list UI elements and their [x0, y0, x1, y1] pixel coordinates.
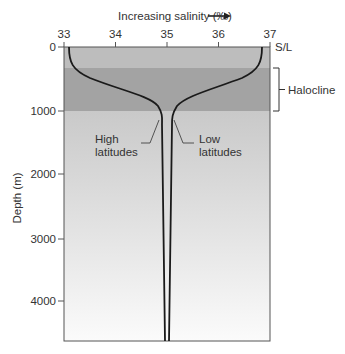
x-tick-33: 33 [58, 28, 71, 40]
y-axis-title: Depth (m) [11, 172, 23, 223]
plot-area [64, 47, 270, 341]
low-latitudes-label-line1: Low [199, 133, 221, 145]
high-latitudes-label-line1: High [95, 133, 119, 145]
x-tick-36: 36 [212, 28, 225, 40]
y-tick-2000: 2000 [30, 168, 56, 180]
x-tick-35: 35 [161, 28, 174, 40]
halocline-band [64, 68, 270, 111]
y-tick-3000: 3000 [30, 233, 56, 245]
surface-layer-band [64, 47, 270, 68]
y-tick-0: 0 [50, 41, 56, 53]
x-tick-37: 37 [264, 28, 277, 40]
x-tick-34: 34 [109, 28, 122, 40]
y-tick-1000: 1000 [30, 105, 56, 117]
sea-level-label: S/L [275, 41, 293, 53]
high-latitudes-label-line2: latitudes [95, 146, 138, 158]
y-axis [58, 47, 64, 301]
low-latitudes-label-line2: latitudes [199, 146, 242, 158]
x-axis [64, 42, 270, 47]
salinity-depth-chart: Increasing salinity (‰) 33 34 35 36 37 0… [0, 0, 345, 354]
halocline-label: Halocline [288, 84, 335, 96]
y-tick-4000: 4000 [30, 295, 56, 307]
halocline-bracket [273, 68, 285, 111]
